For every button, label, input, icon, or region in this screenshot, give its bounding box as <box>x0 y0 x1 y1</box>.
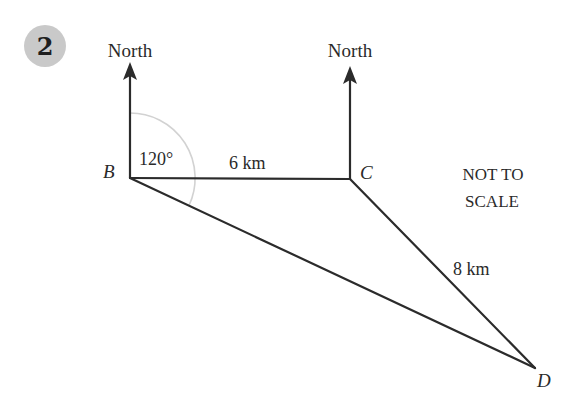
north-arrow-b <box>123 62 137 178</box>
point-label-b: B <box>103 161 115 182</box>
point-label-d: D <box>536 370 551 391</box>
north-arrow-c <box>343 66 357 179</box>
edge-bc <box>130 178 350 179</box>
length-label-bc: 6 km <box>229 153 266 173</box>
north-label-c: North <box>328 40 373 61</box>
point-label-c: C <box>360 162 373 183</box>
length-label-cd: 8 km <box>453 259 490 279</box>
bearing-diagram: 2 North North B C D 120° 6 km 8 km NOT T… <box>0 0 580 394</box>
angle-label: 120° <box>139 149 173 169</box>
scale-note-line2: SCALE <box>465 192 519 211</box>
question-number: 2 <box>37 32 54 61</box>
scale-note-line1: NOT TO <box>463 165 524 184</box>
question-number-badge: 2 <box>24 25 66 67</box>
north-label-b: North <box>108 40 153 61</box>
